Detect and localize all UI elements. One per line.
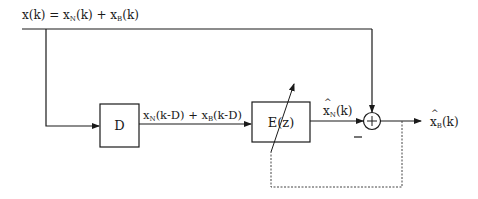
output-label-base: x — [430, 116, 437, 128]
block-diagram-canvas — [0, 0, 478, 199]
input-label-base: x(k) = x — [22, 8, 70, 22]
input-label-mid: (k) + x — [76, 8, 117, 22]
delay-block-label: D — [100, 118, 139, 133]
delayed-label-tail: (k-D) — [213, 108, 242, 122]
input-label-tail: (k) — [122, 8, 139, 22]
noise-estimate-label: xN(k) — [323, 105, 353, 119]
delayed-label-mid: (k-D) + x — [156, 108, 208, 122]
estimate-label-tail: (k) — [336, 104, 353, 118]
estimate-label-base: x — [323, 105, 330, 117]
output-estimate-label: xB(k) — [430, 116, 459, 130]
output-label-tail: (k) — [442, 115, 459, 129]
branch-to-delay — [46, 29, 99, 126]
delayed-signal-label: xN(k-D) + xB(k-D) — [143, 110, 242, 123]
adaptive-filter-label: E(z) — [252, 115, 310, 130]
input-signal-label: x(k) = xN(k) + xB(k) — [22, 9, 139, 23]
